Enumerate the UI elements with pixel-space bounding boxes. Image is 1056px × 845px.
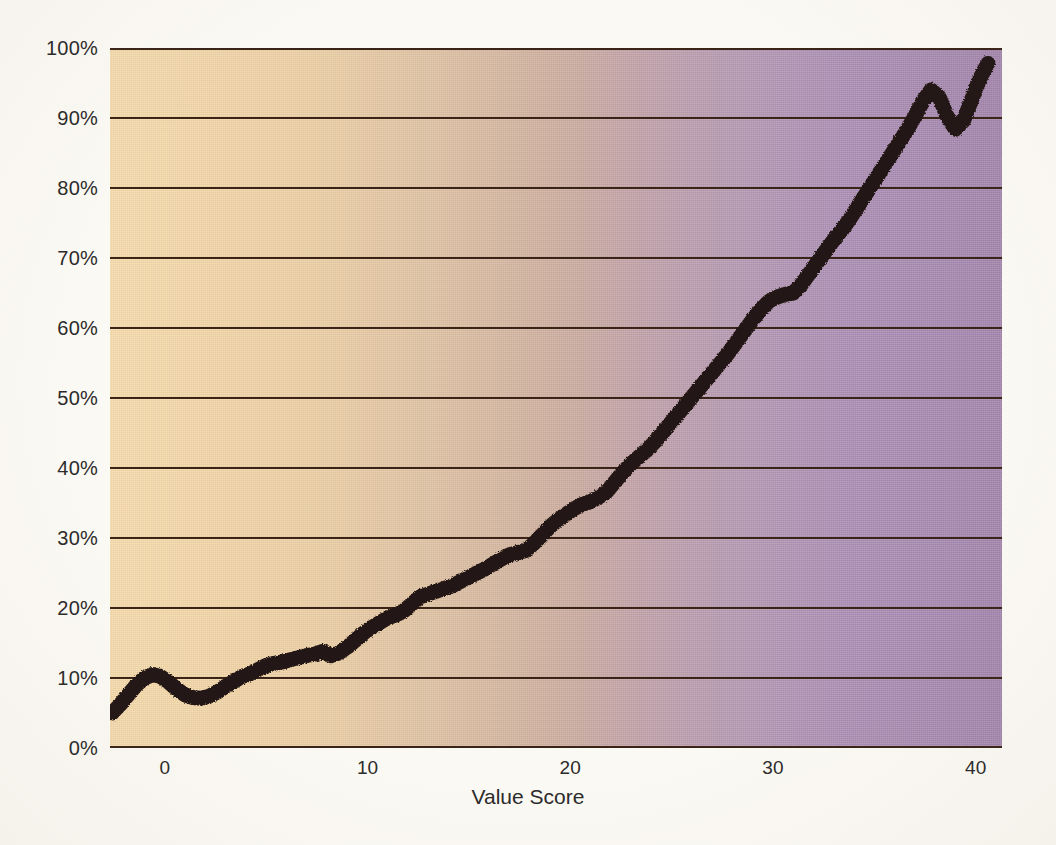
y-axis-tick-label: 80%: [0, 188, 98, 211]
plot-area: [110, 48, 1002, 748]
y-axis-tick-label: 90%: [0, 118, 98, 141]
y-axis-tick-label: 50%: [0, 398, 98, 421]
y-axis-tick-label: 0%: [0, 748, 98, 771]
y-axis-tick-text: 70%: [0, 247, 98, 270]
y-axis-tick-label: 100%: [0, 48, 98, 71]
y-axis-tick-text: 0%: [0, 737, 98, 760]
y-axis-tick-label: 60%: [0, 328, 98, 351]
y-axis-tick-label: 40%: [0, 468, 98, 491]
data-line-svg: [110, 48, 1002, 748]
chart-root: 0%10%20%30%40%50%60%70%80%90%100% 010203…: [0, 0, 1056, 845]
y-axis-tick-text: 10%: [0, 667, 98, 690]
y-axis-tick-text: 100%: [0, 37, 98, 60]
y-axis-tick-text: 80%: [0, 177, 98, 200]
y-axis-tick-label: 70%: [0, 258, 98, 281]
y-axis-tick-label: 10%: [0, 678, 98, 701]
x-axis-tick-label: 20: [560, 757, 581, 779]
y-axis-tick-text: 50%: [0, 387, 98, 410]
x-axis-title: Value Score: [0, 785, 1056, 809]
y-axis-tick-text: 30%: [0, 527, 98, 550]
x-axis-tick-label: 0: [159, 757, 170, 779]
y-axis-tick-label: 30%: [0, 538, 98, 561]
y-axis-tick-text: 60%: [0, 317, 98, 340]
y-axis-tick-text: 90%: [0, 107, 98, 130]
x-axis-tick-label: 30: [762, 757, 783, 779]
x-axis-tick-label: 10: [357, 757, 378, 779]
data-line-cumulative-percent: [112, 63, 988, 713]
y-axis-tick-text: 40%: [0, 457, 98, 480]
x-axis-tick-label: 40: [965, 757, 986, 779]
y-axis-tick-label: 20%: [0, 608, 98, 631]
y-axis-tick-text: 20%: [0, 597, 98, 620]
